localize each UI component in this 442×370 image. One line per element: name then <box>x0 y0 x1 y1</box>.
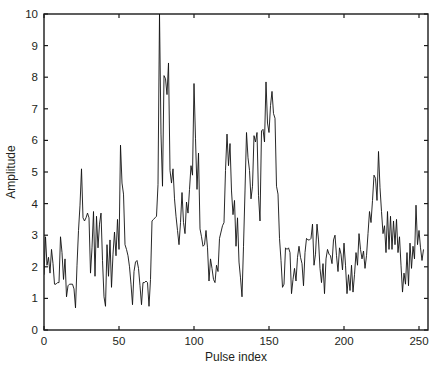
y-tick-label: 4 <box>32 198 39 210</box>
amplitude-vs-pulse-index-figure: 050100150200250012345678910 Pulse index … <box>0 0 442 370</box>
y-tick-label: 6 <box>32 134 38 146</box>
y-axis-title: Amplitude <box>4 145 18 199</box>
y-tick-label: 5 <box>32 166 38 178</box>
y-tick-label: 7 <box>32 103 38 115</box>
x-tick-label: 150 <box>259 335 278 347</box>
x-tick-label: 50 <box>113 335 126 347</box>
y-tick-label: 0 <box>32 324 38 336</box>
y-tick-label: 1 <box>32 292 38 304</box>
x-tick-label: 100 <box>184 335 203 347</box>
chart-page: 050100150200250012345678910 Pulse index … <box>0 0 442 370</box>
y-tick-label: 3 <box>32 229 38 241</box>
plot-svg: 050100150200250012345678910 Pulse index … <box>0 0 442 370</box>
y-tick-label: 10 <box>25 8 38 20</box>
x-tick-label: 200 <box>334 335 353 347</box>
x-tick-label: 0 <box>41 335 47 347</box>
y-tick-label: 9 <box>32 40 38 52</box>
x-tick-label: 250 <box>409 335 428 347</box>
y-tick-label: 2 <box>32 261 38 273</box>
y-tick-label: 8 <box>32 71 38 83</box>
x-axis-title: Pulse index <box>205 350 267 364</box>
